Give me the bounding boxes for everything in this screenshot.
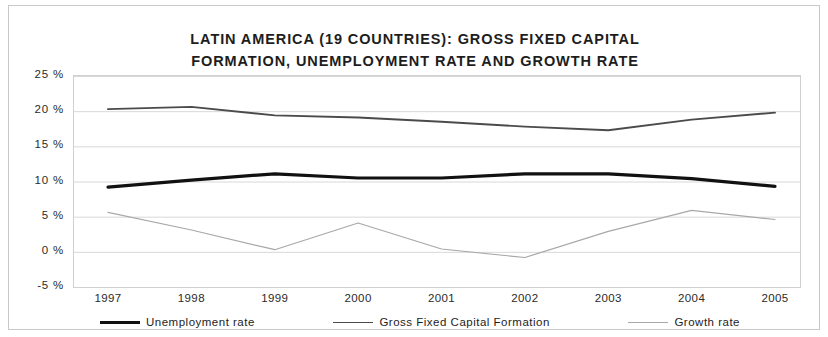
legend-label: Gross Fixed Capital Formation bbox=[379, 316, 549, 328]
x-tick-label: 2000 bbox=[328, 292, 388, 304]
y-tick-label: 5 % bbox=[12, 209, 64, 221]
legend-swatch-icon bbox=[333, 322, 373, 323]
x-tick-label: 2005 bbox=[745, 292, 805, 304]
x-tick-label: 2002 bbox=[495, 292, 555, 304]
x-tick-label: 2004 bbox=[662, 292, 722, 304]
y-tick-label: 25 % bbox=[12, 68, 64, 80]
series-line bbox=[108, 107, 775, 130]
y-tick-label: 0 % bbox=[12, 244, 64, 256]
series-line bbox=[108, 174, 775, 187]
legend-item-gross-fixed-capital-formation: Gross Fixed Capital Formation bbox=[333, 316, 549, 328]
x-tick-label: 2003 bbox=[578, 292, 638, 304]
x-tick-label: 1999 bbox=[245, 292, 305, 304]
legend-item-unemployment-rate: Unemployment rate bbox=[100, 316, 255, 328]
legend-item-growth-rate: Growth rate bbox=[628, 316, 740, 328]
legend-label: Growth rate bbox=[674, 316, 740, 328]
x-tick-label: 1998 bbox=[161, 292, 221, 304]
x-tick-label: 1997 bbox=[78, 292, 138, 304]
chart-legend: Unemployment rate Gross Fixed Capital Fo… bbox=[100, 312, 740, 332]
legend-swatch-icon bbox=[100, 321, 140, 324]
plot-svg bbox=[0, 0, 828, 337]
legend-label: Unemployment rate bbox=[146, 316, 255, 328]
plot-area: 25 %20 %15 %10 %5 %0 %-5 % 1997199819992… bbox=[0, 0, 828, 337]
x-tick-label: 2001 bbox=[412, 292, 472, 304]
y-tick-label: 10 % bbox=[12, 174, 64, 186]
y-tick-label: -5 % bbox=[12, 279, 64, 291]
chart-figure: LATIN AMERICA (19 COUNTRIES): GROSS FIXE… bbox=[0, 0, 828, 337]
y-tick-label: 15 % bbox=[12, 138, 64, 150]
y-tick-label: 20 % bbox=[12, 103, 64, 115]
legend-swatch-icon bbox=[628, 322, 668, 323]
